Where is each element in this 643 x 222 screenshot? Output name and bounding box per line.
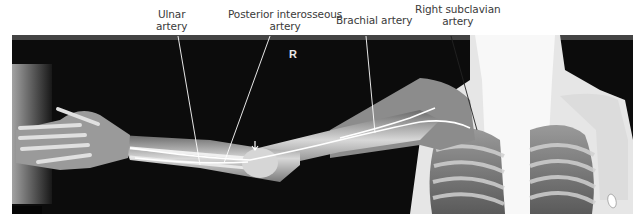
xray-image [0,0,643,222]
label-brachial-artery: Brachial artery [336,14,412,26]
label-posterior-interosseous-line1: Posterior interosseous [228,8,342,20]
label-ulnar-artery: Ulnar artery [156,8,187,32]
label-ulnar-line2: artery [156,20,187,32]
label-right-subclavian-line1: Right subclavian [415,3,501,15]
label-right-subclavian-line2: artery [415,15,501,27]
label-brachial-line1: Brachial artery [336,14,412,26]
label-posterior-interosseous-artery: Posterior interosseous artery [228,8,342,32]
label-posterior-interosseous-line2: artery [228,20,342,32]
side-marker-r: R [289,48,297,60]
label-right-subclavian-artery: Right subclavian artery [415,3,501,27]
label-ulnar-line1: Ulnar [156,8,187,20]
